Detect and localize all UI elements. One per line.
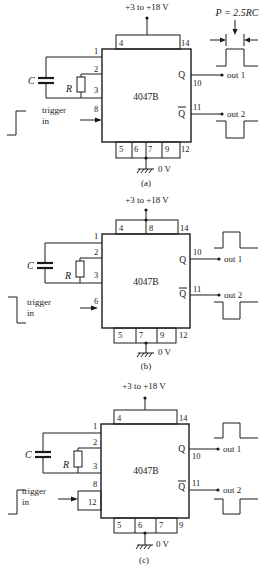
trigger-arrowhead-icon — [71, 497, 78, 502]
pin-14-label: 14 — [179, 413, 188, 423]
q-label: Q — [178, 444, 185, 454]
resistor-body — [77, 77, 85, 92]
pin-2-label: 2 — [93, 437, 97, 447]
pin-8-label: 8 — [93, 479, 97, 489]
qbar-label: Q — [179, 289, 186, 299]
ground-label: 0 V — [156, 539, 170, 549]
out2-label: out 2 — [224, 290, 242, 300]
circuit-b: +3 to +18 V 4 8 14 4047B 1 2 3 6 C R tri… — [8, 195, 258, 371]
capacitor-label: C — [28, 75, 35, 86]
pin-5-label: 5 — [119, 144, 123, 154]
pin-12-label: 12 — [181, 144, 190, 154]
caption-c: (c) — [139, 555, 149, 565]
pin-14-label: 14 — [181, 38, 190, 48]
pin-10-label: 10 — [193, 78, 202, 88]
out1-positive-pulse-waveform — [214, 423, 258, 438]
pin-4-label: 4 — [119, 38, 124, 48]
top-pin-strip — [116, 220, 178, 234]
bottom-pin-strip — [114, 328, 176, 343]
out2-terminal-dot — [216, 488, 219, 491]
resistor-label: R — [65, 83, 72, 94]
pin-6-label: 6 — [94, 296, 98, 306]
out2-negative-pulse-waveform — [216, 121, 258, 138]
pin-11-label: 11 — [192, 478, 200, 488]
out2-terminal-dot — [220, 112, 223, 115]
out1-terminal-dot — [217, 257, 220, 260]
caption-b: (b) — [141, 361, 152, 371]
pin-1-label: 1 — [93, 421, 97, 431]
trigger-label-line1: trigger — [42, 105, 66, 115]
chip-label: 4047B — [133, 466, 158, 476]
out2-label: out 2 — [227, 109, 245, 119]
pin-8-label: 8 — [94, 104, 98, 114]
capacitor-label: C — [27, 260, 34, 271]
chip-label: 4047B — [133, 92, 158, 102]
ground-symbol-icon — [137, 169, 154, 173]
out2-terminal-dot — [217, 293, 220, 296]
resistor-label: R — [62, 459, 69, 470]
supply-label: +3 to +18 V — [125, 2, 169, 12]
ground-label: 0 V — [158, 347, 172, 357]
caption-a: (a) — [141, 178, 151, 188]
pin-1-label: 1 — [94, 46, 98, 56]
pin-9-label: 9 — [165, 144, 169, 154]
out1-positive-pulse-waveform — [216, 49, 258, 66]
dimension-arrowhead-right-icon — [244, 38, 250, 43]
top-pin-strip — [114, 410, 177, 424]
out2-negative-pulse-waveform — [214, 499, 258, 514]
pin-2-label: 2 — [94, 64, 98, 74]
out1-positive-pulse-waveform — [214, 232, 258, 248]
circuit-a: +3 to +18 V 4 14 4047B 1 2 3 8 C R trigg… — [7, 2, 259, 188]
pin-3-label: 3 — [93, 461, 97, 471]
pulse-width-annotation: P = 2.5RC — [215, 7, 259, 18]
out1-terminal-dot — [216, 447, 219, 450]
out2-label: out 2 — [223, 485, 241, 495]
monostable-circuit-figure: +3 to +18 V 4 14 4047B 1 2 3 8 C R trigg… — [0, 0, 264, 572]
pin-8-label: 8 — [149, 223, 153, 233]
trigger-label-line1: trigger — [27, 297, 51, 307]
pin-6-label: 6 — [138, 520, 142, 530]
annotation-down-arrow-icon — [233, 29, 238, 35]
pin-11-label: 11 — [193, 284, 201, 294]
pin-2-label: 2 — [94, 247, 98, 257]
pin-5-label: 5 — [117, 520, 121, 530]
out2-negative-pulse-waveform — [214, 302, 258, 319]
trigger-label-line2: in — [27, 308, 35, 318]
pin-10-label: 10 — [193, 247, 202, 257]
trigger-label-line2: in — [42, 116, 50, 126]
q-label: Q — [179, 255, 186, 265]
pin-3-label: 3 — [94, 270, 98, 280]
trigger-label-line2: in — [22, 497, 30, 507]
ground-symbol-icon — [136, 545, 153, 549]
q-label: Q — [178, 70, 185, 80]
trigger-label-line1: trigger — [22, 486, 46, 496]
ground-label: 0 V — [158, 164, 172, 174]
pin-9-label: 9 — [179, 520, 183, 530]
pin-14-label: 14 — [180, 223, 189, 233]
chip-label: 4047B — [133, 277, 158, 287]
out1-label: out 1 — [224, 254, 242, 264]
bottom-pin-strip — [114, 518, 177, 533]
out1-terminal-dot — [220, 73, 223, 76]
trigger-arrowhead-icon — [95, 118, 102, 123]
pin-11-label: 11 — [193, 102, 201, 112]
dimension-arrowhead-left-icon — [220, 38, 226, 43]
out1-label: out 1 — [227, 70, 245, 80]
pin-1-label: 1 — [94, 231, 98, 241]
pin-12-label: 12 — [179, 330, 188, 340]
pin-12-label: 12 — [88, 497, 97, 507]
qbar-label: Q — [178, 109, 185, 119]
trigger-arrowhead-icon — [91, 306, 98, 311]
pin-6-label: 6 — [134, 144, 138, 154]
circuit-c: +3 to +18 V 4 14 4047B 1 2 3 8 C R 12 tr… — [8, 381, 258, 565]
capacitor-label: C — [25, 449, 32, 460]
ground-symbol-icon — [137, 353, 154, 357]
qbar-label: Q — [178, 482, 185, 492]
supply-label: +3 to +18 V — [122, 381, 166, 391]
out1-label: out 1 — [223, 444, 241, 454]
resistor-label: R — [64, 270, 71, 281]
trigger-falling-edge-waveform — [8, 297, 26, 323]
top-pin-strip — [116, 35, 180, 49]
resistor-body — [74, 451, 82, 467]
pin-3-label: 3 — [94, 85, 98, 95]
